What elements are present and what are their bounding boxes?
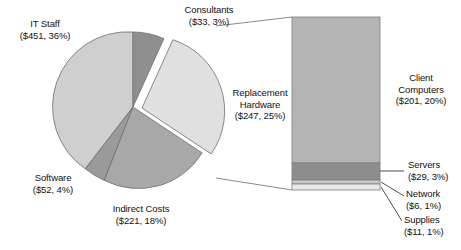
- bar-label-client-computers-name2: Computers: [384, 84, 458, 96]
- bar-segment-servers[interactable]: [292, 163, 380, 180]
- pie-label-it-staff: IT Staff ($451, 36%): [2, 18, 88, 41]
- pie-label-indirect-costs: Indirect Costs ($221, 18%): [94, 203, 188, 226]
- bar-label-servers-value: ($29, 3%): [408, 171, 461, 183]
- pie-label-replacement-hardware-value: ($247, 25%): [222, 110, 298, 122]
- pie-label-software-name: Software: [14, 172, 92, 184]
- bar-label-supplies-name: Supplies: [404, 214, 461, 226]
- pie-label-consultants-name: Consultants: [168, 4, 250, 16]
- bar-label-supplies: Supplies ($11, 1%): [404, 214, 461, 237]
- pie-label-it-staff-value: ($451, 36%): [2, 30, 88, 42]
- pie-label-software: Software ($52, 4%): [14, 172, 92, 195]
- leader-line-supplies: [381, 187, 402, 221]
- bar-label-network: Network ($6, 1%): [406, 188, 461, 211]
- pie-label-consultants: Consultants ($33, 3%): [168, 4, 250, 27]
- bar-label-servers: Servers ($29, 3%): [408, 159, 461, 182]
- bar-segment-network[interactable]: [292, 180, 380, 184]
- pie-label-replacement-hardware-name2: Hardware: [222, 99, 298, 111]
- pie-label-it-staff-name: IT Staff: [2, 18, 88, 30]
- pie-label-replacement-hardware-name1: Replacement: [222, 87, 298, 99]
- leader-line-network: [381, 182, 404, 196]
- pie-label-replacement-hardware: Replacement Hardware ($247, 25%): [222, 87, 298, 122]
- bar-label-supplies-value: ($11, 1%): [404, 226, 461, 238]
- bar-segment-client-computers[interactable]: [292, 17, 380, 163]
- bar-segment-supplies[interactable]: [292, 184, 380, 190]
- pie-label-indirect-costs-name: Indirect Costs: [94, 203, 188, 215]
- bar-label-client-computers: Client Computers ($201, 20%): [384, 72, 458, 107]
- pie-label-indirect-costs-value: ($221, 18%): [94, 215, 188, 227]
- bar-label-network-value: ($6, 1%): [406, 200, 461, 212]
- bar-label-servers-name: Servers: [408, 159, 461, 171]
- bar-of-pie-stack: [292, 17, 380, 190]
- bar-label-network-name: Network: [406, 188, 461, 200]
- pie-label-consultants-value: ($33, 3%): [168, 16, 250, 28]
- pie-label-software-value: ($52, 4%): [14, 184, 92, 196]
- bar-label-client-computers-name1: Client: [384, 72, 458, 84]
- bar-label-client-computers-value: ($201, 20%): [384, 95, 458, 107]
